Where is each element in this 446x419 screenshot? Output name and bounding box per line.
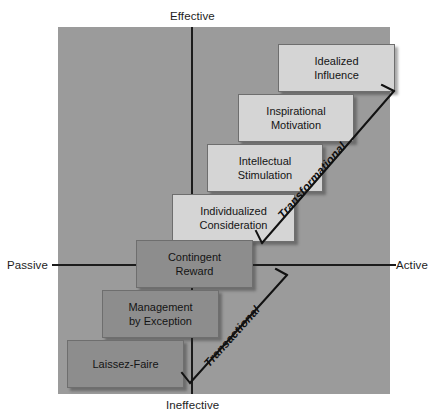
box-laissez-faire: Laissez-Faire: [67, 340, 184, 388]
box-label-line1: Idealized: [314, 54, 359, 68]
box-label-line1: Laissez-Faire: [92, 357, 158, 371]
bracket-transformational: Transformational: [254, 83, 396, 253]
bracket-transactional: Transactional: [180, 267, 290, 391]
axis-label-ineffective: Ineffective: [166, 399, 219, 411]
axis-label-effective: Effective: [170, 10, 215, 22]
box-label-line1: Contingent: [168, 250, 221, 264]
axis-label-passive: Passive: [7, 259, 48, 271]
leadership-model-diagram: Idealized Influence Inspirational Motiva…: [0, 0, 446, 419]
axis-label-active: Active: [396, 259, 428, 271]
box-label-line2: Influence: [314, 68, 359, 82]
plot-area: Idealized Influence Inspirational Motiva…: [58, 27, 390, 394]
